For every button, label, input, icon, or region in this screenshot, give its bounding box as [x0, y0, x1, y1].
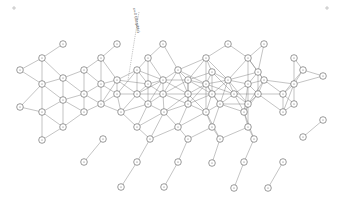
graph-node — [209, 124, 216, 131]
corner-markers — [12, 6, 329, 10]
graph-node — [114, 91, 121, 98]
graph-edge — [258, 94, 283, 112]
graph-node — [320, 117, 327, 124]
graph-node — [161, 184, 168, 191]
graph-node — [145, 81, 152, 88]
graph-edge — [188, 94, 212, 104]
graph-node — [280, 91, 287, 98]
graph-node — [203, 55, 210, 62]
graph-node — [134, 124, 141, 131]
graph-node — [241, 159, 248, 166]
graph-edge — [212, 104, 220, 127]
graph-edge — [84, 139, 103, 162]
graph-node — [100, 136, 107, 143]
graph-node — [81, 67, 88, 74]
graph-node — [261, 41, 268, 48]
graph-node — [203, 81, 210, 88]
graph-node — [160, 41, 167, 48]
graph-edge — [121, 104, 148, 112]
graph-edges — [20, 44, 323, 188]
graph-node — [255, 69, 262, 76]
graph-node — [175, 67, 182, 74]
crosshair-icon — [12, 6, 16, 10]
graph-edge — [178, 104, 188, 127]
graph-node — [255, 91, 262, 98]
graph-node — [161, 109, 168, 116]
graph-edge — [164, 162, 178, 187]
graph-edge — [121, 94, 137, 112]
graph-node — [300, 67, 307, 74]
graph-node — [291, 55, 298, 62]
graph-node — [60, 97, 67, 104]
graph-edge — [303, 120, 323, 137]
graph-node — [231, 185, 238, 192]
annotation-text: x=0 (illegible) — [132, 7, 140, 33]
graph-node — [134, 67, 141, 74]
graph-edge — [244, 139, 254, 162]
graph-edge — [178, 70, 206, 84]
graph-node — [280, 159, 287, 166]
graph-node — [261, 77, 268, 84]
graph-edge — [42, 44, 63, 58]
graph-edge — [206, 44, 228, 58]
graph-edge — [220, 127, 248, 139]
graph-node — [114, 77, 121, 84]
graph-node — [81, 159, 88, 166]
graph-node — [291, 81, 298, 88]
graph-edge — [234, 162, 244, 188]
graph-edge — [228, 72, 258, 80]
graph-node — [185, 136, 192, 143]
crosshair-icon — [325, 6, 329, 10]
graph-edge — [20, 58, 42, 70]
graph-edge — [178, 139, 188, 162]
graph-edge — [228, 44, 248, 58]
graph-edge — [163, 94, 188, 104]
graph-edge — [148, 58, 163, 80]
lattice-graph-diagram: x=0 (illegible) — [0, 0, 341, 213]
graph-node — [217, 101, 224, 108]
graph-edge — [164, 104, 188, 112]
graph-node — [209, 91, 216, 98]
graph-edge — [63, 100, 84, 112]
graph-node — [291, 101, 298, 108]
graph-node — [225, 41, 232, 48]
graph-node — [39, 55, 46, 62]
graph-node — [209, 160, 216, 167]
graph-node — [185, 91, 192, 98]
graph-node — [39, 109, 46, 116]
graph-edge — [137, 104, 148, 127]
graph-edge — [178, 58, 206, 70]
graph-edge — [63, 112, 84, 127]
graph-node — [98, 81, 105, 88]
graph-node — [245, 55, 252, 62]
graph-node — [114, 41, 121, 48]
graph-edge — [188, 58, 206, 80]
graph-node — [203, 109, 210, 116]
graph-edge — [101, 58, 117, 80]
graph-edge — [212, 139, 220, 163]
graph-node — [81, 109, 88, 116]
graph-node — [60, 75, 67, 82]
graph-edge — [121, 162, 137, 187]
graph-node — [118, 184, 125, 191]
graph-edge — [163, 44, 178, 70]
graph-node — [209, 69, 216, 76]
graph-edge — [268, 162, 283, 188]
graph-edge — [42, 58, 63, 78]
graph-node — [265, 185, 272, 192]
graph-node — [118, 109, 125, 116]
graph-node — [231, 91, 238, 98]
graph-edge — [188, 127, 212, 139]
graph-edge — [178, 112, 206, 127]
graph-node — [241, 109, 248, 116]
graph-node — [280, 109, 287, 116]
graph-node — [17, 104, 24, 111]
graph-node — [60, 41, 67, 48]
graph-node — [134, 91, 141, 98]
graph-node — [175, 124, 182, 131]
graph-node — [160, 77, 167, 84]
graph-edge — [20, 84, 42, 107]
graph-edge — [63, 78, 84, 94]
graph-node — [98, 101, 105, 108]
graph-node — [134, 159, 141, 166]
